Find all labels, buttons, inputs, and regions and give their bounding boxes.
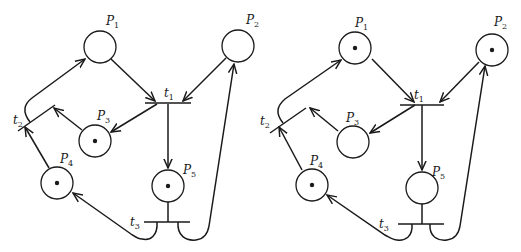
arc-p4-t2 [25,127,49,168]
label-p3: P3 [96,109,110,125]
arc-t3-p2 [430,66,485,240]
token-p4 [310,183,314,187]
token-p2 [490,48,494,52]
arc-p4-t2 [279,127,302,170]
arc-t3-p4 [73,193,157,239]
label-t1: t1 [164,86,174,102]
label-t2: t2 [13,113,23,129]
transition-t2-bar[interactable] [18,105,55,131]
label-t2: t2 [260,114,270,130]
arc-p1-t1 [111,59,155,101]
place-p1[interactable] [84,31,116,63]
label-t3: t3 [130,215,140,231]
label-p1: P1 [105,14,119,30]
arc-t3-p2 [178,64,234,240]
arc-p1-t1 [372,59,414,102]
label-p1: P1 [354,16,368,32]
token-p3 [93,139,97,143]
token-p1 [353,46,357,50]
label-p4: P4 [59,152,73,168]
petri-net-before: P1 P2 P3 P4 P5 t1 t2 t3 [13,13,259,240]
label-p5: P5 [431,165,445,181]
petri-net-figure: P1 P2 P3 P4 P5 t1 t2 t3 P1 P2 P3 P4 [0,0,521,252]
arc-t2-p1 [25,59,85,122]
label-p3: P3 [345,111,359,127]
arc-t3-p4 [327,195,412,240]
label-t1: t1 [414,88,424,104]
arc-p3-t2 [310,108,338,131]
arc-t1-p3 [111,104,157,132]
token-p4 [55,181,59,185]
label-t3: t3 [379,217,389,233]
label-p2: P2 [493,15,507,31]
place-p2[interactable] [222,30,254,62]
arc-p2-t1 [183,58,226,101]
transition-t2-bar[interactable] [270,108,306,133]
arc-t2-p1 [278,60,341,123]
petri-net-after: P1 P2 P3 P4 P5 t1 t2 t3 [260,15,508,240]
label-p5: P5 [182,163,196,179]
arc-p2-t1 [440,62,479,102]
arc-t1-p3 [370,105,415,133]
token-p5 [166,184,170,188]
label-p4: P4 [309,154,323,170]
arc-p3-t2 [54,108,82,130]
place-p3[interactable] [337,126,369,158]
label-p2: P2 [245,13,259,29]
